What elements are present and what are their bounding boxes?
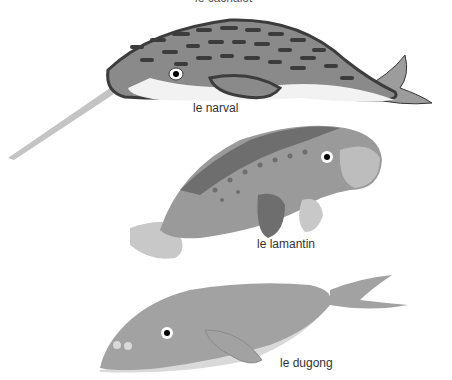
narwhal-label: le narval bbox=[193, 101, 238, 115]
manatee-figure bbox=[130, 126, 382, 259]
cutoff-label: le cachalot bbox=[195, 0, 252, 5]
illustration-canvas: le cachalot bbox=[0, 0, 452, 380]
dugong-label: le dugong bbox=[280, 356, 333, 370]
dugong-figure bbox=[100, 275, 408, 373]
marine-mammals-illustration bbox=[0, 0, 452, 380]
manatee-label: le lamantin bbox=[257, 237, 315, 251]
